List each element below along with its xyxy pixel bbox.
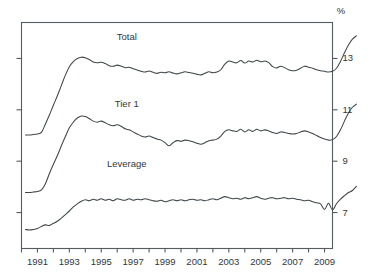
y-axis-unit-label: % [337, 5, 346, 16]
plot-frame [22, 23, 333, 249]
x-tick-label: 2007 [282, 256, 303, 267]
y-tick-label: 7 [343, 207, 348, 218]
y-tick-label: 13 [343, 52, 354, 63]
series-label-total: Total [117, 31, 137, 42]
series-line-leverage [25, 186, 356, 230]
y-axis-ticks [17, 58, 338, 212]
x-tick-label: 1997 [123, 256, 144, 267]
plot-area-border [22, 23, 333, 249]
capital-ratios-line-chart: TotalTier 1Leverage 791113 1991199319951… [0, 0, 373, 280]
series-inline-labels: TotalTier 1Leverage [107, 31, 147, 169]
x-axis-ticks [22, 249, 325, 253]
y-tick-label: 9 [343, 155, 348, 166]
x-tick-label: 2005 [250, 256, 271, 267]
series-lines [25, 36, 356, 230]
x-tick-label: 1999 [154, 256, 175, 267]
y-tick-label: 11 [343, 104, 353, 115]
series-label-leverage: Leverage [107, 158, 147, 169]
series-line-tier-1 [25, 104, 356, 192]
x-tick-label: 2001 [186, 256, 207, 267]
chart-figure: TotalTier 1Leverage 791113 1991199319951… [0, 0, 373, 280]
series-label-tier-1: Tier 1 [115, 98, 139, 109]
x-axis-tick-labels: 1991199319951997199920012003200520072009 [27, 256, 335, 267]
x-tick-label: 2003 [218, 256, 239, 267]
x-tick-label: 1993 [59, 256, 80, 267]
x-tick-label: 1995 [91, 256, 112, 267]
x-tick-label: 1991 [27, 256, 48, 267]
x-tick-label: 2009 [314, 256, 335, 267]
